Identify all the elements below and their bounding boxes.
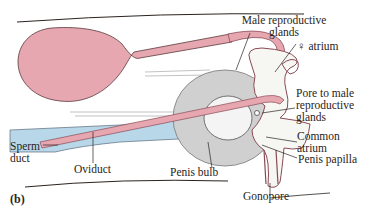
label-text: reproductive [296, 99, 354, 111]
pore-dot [255, 111, 260, 116]
label-female-atrium: ♀ atrium [297, 40, 339, 52]
label-text: duct [10, 152, 40, 164]
label-text: Male reproductive [239, 14, 329, 26]
panel-label: (b) [10, 192, 25, 207]
label-text: glands [239, 26, 329, 38]
label-sperm-duct: Sperm duct [10, 140, 40, 164]
reproductive-anatomy-diagram: Male reproductive glands ♀ atrium Pore t… [0, 0, 367, 211]
label-penis-bulb: Penis bulb [170, 166, 218, 178]
label-pore-to-male-glands: Pore to male reproductive glands [296, 87, 354, 123]
label-text: glands [296, 111, 354, 123]
label-oviduct: Oviduct [74, 163, 111, 175]
label-text: Common [297, 130, 340, 142]
label-male-reproductive-glands: Male reproductive glands [239, 14, 329, 38]
label-text: Sperm [10, 140, 40, 152]
label-penis-papilla: Penis papilla [298, 153, 357, 165]
label-common-atrium: Common atrium [297, 130, 340, 154]
label-text: Pore to male [296, 87, 354, 99]
label-gonopore: Gonopore [243, 190, 289, 202]
body-wall-bottom [25, 180, 228, 187]
